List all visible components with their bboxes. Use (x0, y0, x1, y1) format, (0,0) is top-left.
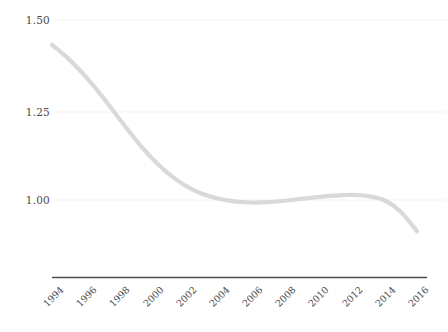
ytick-label-1-50: 1.50 (14, 14, 50, 26)
data-series-line (52, 45, 417, 231)
line-chart-plot (0, 0, 448, 332)
chart-container: 1.50 1.25 1.00 1994199619982000200220042… (0, 0, 448, 332)
ytick-label-1-00: 1.00 (14, 194, 50, 206)
ytick-label-1-25: 1.25 (14, 106, 50, 118)
